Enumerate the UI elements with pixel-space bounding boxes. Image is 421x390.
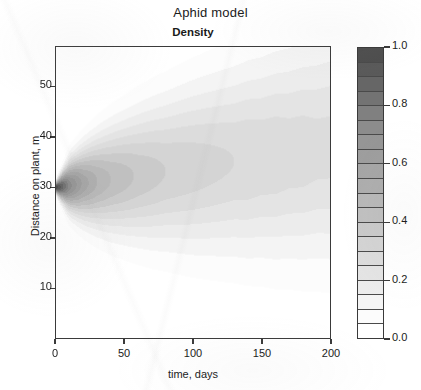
colorbar-tick-label: 0.0: [392, 331, 407, 343]
x-tick-label: 100: [173, 347, 213, 359]
colorbar-band: [358, 222, 383, 237]
colorbar-tick-mark: [384, 338, 390, 339]
colorbar-band: [358, 120, 383, 135]
x-tick-label: 50: [104, 347, 144, 359]
colorbar-band: [358, 323, 383, 338]
colorbar-tick-label: 0.2: [392, 273, 407, 285]
colorbar-band: [358, 193, 383, 208]
colorbar-band: [358, 149, 383, 164]
colorbar-band: [358, 251, 383, 266]
x-axis-title: time, days: [55, 368, 331, 380]
colorbar-band: [358, 62, 383, 77]
x-tick-label: 200: [311, 347, 351, 359]
colorbar-band: [358, 48, 383, 62]
colorbar-band: [358, 236, 383, 251]
colorbar-tick-mark: [384, 280, 390, 281]
colorbar-band: [358, 91, 383, 106]
chart-subtitle: Density: [55, 26, 331, 38]
x-tick-mark: [330, 339, 331, 344]
x-tick-mark: [192, 339, 193, 344]
colorbar-band: [358, 178, 383, 193]
colorbar-tick-mark: [384, 105, 390, 106]
x-tick-label: 0: [35, 347, 75, 359]
colorbar-tick-mark: [384, 46, 390, 47]
colorbar-band: [358, 105, 383, 120]
colorbar-band: [358, 163, 383, 178]
x-tick-label: 150: [242, 347, 282, 359]
x-tick-mark: [54, 339, 55, 344]
y-tick-label: 50: [22, 78, 52, 90]
x-tick-mark: [261, 339, 262, 344]
colorbar-band: [358, 134, 383, 149]
colorbar-tick-label: 1.0: [392, 39, 407, 51]
x-tick-mark: [123, 339, 124, 344]
colorbar-tick-label: 0.8: [392, 97, 407, 109]
colorbar: [357, 47, 384, 339]
colorbar-tick-label: 0.6: [392, 156, 407, 168]
colorbar-tick-label: 0.4: [392, 214, 407, 226]
colorbar-band: [358, 294, 383, 309]
colorbar-band: [358, 207, 383, 222]
colorbar-band: [358, 280, 383, 295]
chart-title: Aphid model: [0, 5, 421, 20]
colorbar-tick-mark: [384, 163, 390, 164]
density-heatmap: [56, 47, 330, 338]
y-tick-label: 10: [22, 280, 52, 292]
colorbar-band: [358, 265, 383, 280]
colorbar-band: [358, 76, 383, 91]
y-tick-label: 30: [22, 179, 52, 191]
plot-area: [55, 46, 331, 339]
y-tick-label: 20: [22, 230, 52, 242]
y-tick-label: 40: [22, 129, 52, 141]
colorbar-tick-mark: [384, 222, 390, 223]
colorbar-band: [358, 309, 383, 324]
